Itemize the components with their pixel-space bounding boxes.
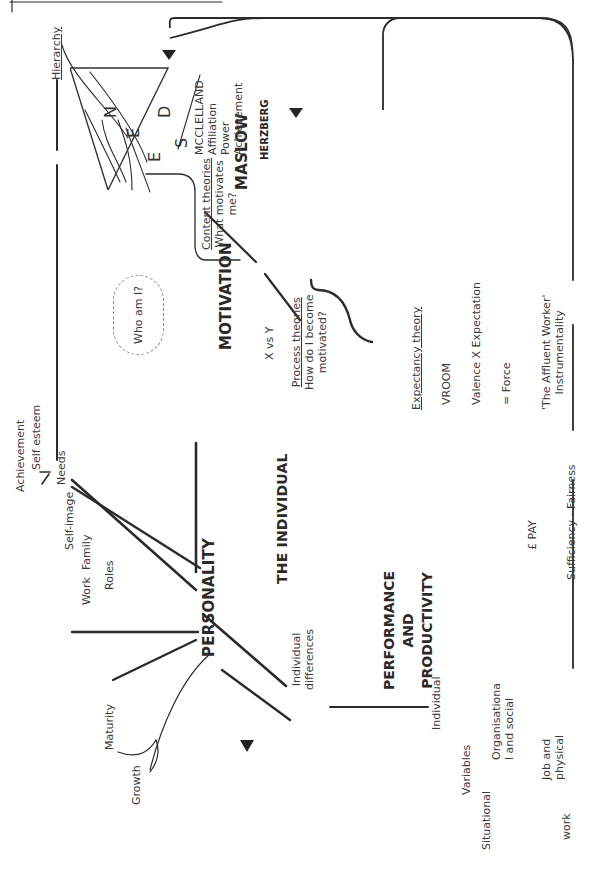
- pay-line-label: Sufficiency - Fairness: [565, 464, 578, 580]
- individual-differences-line2: differences: [303, 629, 316, 690]
- mcclelland-list: MCCLELLAND Affiliation Power Achievement: [193, 80, 245, 155]
- content-theories-heading: Content theories: [200, 158, 213, 250]
- vroom-label: VROOM: [440, 363, 453, 405]
- growth-label: Growth: [130, 765, 143, 805]
- needs-self-esteem: Self esteem: [30, 405, 43, 470]
- mcclelland-item: Power: [219, 80, 232, 155]
- performance-line2: AND: [399, 571, 418, 690]
- maslow-pyramid: [70, 60, 190, 190]
- expectancy-formula: Valence X Expectation: [470, 282, 483, 405]
- mcclelland-heading: MCCLELLAND: [193, 80, 206, 155]
- roles-family: Family: [80, 535, 93, 570]
- process-theories-question: How do I become: [303, 295, 316, 390]
- roles-label: Roles: [103, 561, 116, 590]
- performance-line3: PRODUCTIVITY: [418, 571, 437, 690]
- mind-map-canvas: THE INDIVIDUAL PERSONALITY Needs Achieve…: [0, 0, 598, 880]
- self-image-node: Self-image: [63, 492, 76, 550]
- thought-bubble-who-am-i: Who am I?: [113, 275, 164, 355]
- affluent-worker: 'The Affluent Worker' Instrumentality: [540, 295, 566, 410]
- variables-job: Job and physical: [540, 735, 566, 780]
- performance-productivity: PERFORMANCE AND PRODUCTIVITY: [380, 571, 437, 690]
- variables-organisational-1: Organisationa: [490, 683, 503, 760]
- variables-job-2: physical: [553, 735, 566, 780]
- process-theories-heading: Process theories: [290, 295, 303, 390]
- mcclelland-item: Achievement: [232, 80, 245, 155]
- individual-differences-line1: Individual: [290, 629, 303, 690]
- content-theories-question: What motivates: [213, 158, 226, 250]
- performance-line1: PERFORMANCE: [380, 571, 399, 690]
- affluent-worker-subtitle: Instrumentality: [553, 295, 566, 410]
- title: THE INDIVIDUAL: [276, 453, 289, 584]
- variables-job-1: Job and: [540, 735, 553, 780]
- hierarchy-label: Hierarchy: [50, 27, 63, 80]
- x-vs-y: X vs Y: [263, 327, 276, 361]
- expectancy-result: = Force: [500, 363, 513, 405]
- mcclelland-item: Affiliation: [206, 80, 219, 155]
- needs-label: Needs: [55, 451, 68, 485]
- factory-label: work: [560, 813, 573, 840]
- motivation-node: MOTIVATION: [220, 242, 233, 350]
- diagram-frame: THE INDIVIDUAL PERSONALITY Needs Achieve…: [0, 0, 598, 880]
- needs-achievement: Achievement: [14, 420, 27, 492]
- maturity-label: Maturity: [103, 704, 116, 750]
- personality-node: PERSONALITY: [203, 538, 216, 657]
- roles-work: Work: [80, 577, 93, 605]
- process-theories-question-2: motivated?: [316, 295, 329, 390]
- individual-differences: Individual differences: [290, 629, 316, 690]
- expectancy-heading: Expectancy theory: [410, 307, 423, 410]
- process-theories: Process theories How do I become motivat…: [290, 295, 329, 390]
- herzberg-label: HERZBERG: [258, 99, 271, 160]
- variables-organisational: Organisationa l and social: [490, 683, 516, 760]
- variables-center: Variables: [460, 745, 473, 795]
- affluent-worker-title: 'The Affluent Worker': [540, 295, 553, 410]
- variables-organisational-2: l and social: [503, 683, 516, 760]
- variables-individual: Individual: [430, 676, 443, 730]
- pay-bag: £ PAY: [526, 520, 539, 550]
- variables-situational: Situational: [480, 791, 493, 850]
